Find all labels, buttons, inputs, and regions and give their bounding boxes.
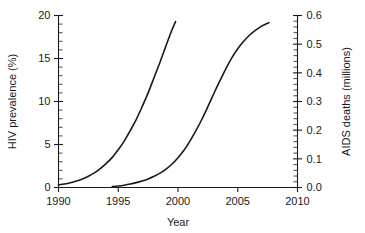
data-series [59, 22, 269, 187]
x-axis-tick-label: 2010 [285, 195, 309, 207]
left-axis-tick-label: 10 [38, 95, 50, 107]
left-axis-tick-label: 5 [44, 138, 50, 150]
right-axis-tick-label: 0.6 [307, 9, 322, 21]
series-line-hiv-prevalence [59, 22, 176, 185]
left-axis-tick-label: 20 [38, 9, 50, 21]
x-axis-tick-label: 1995 [106, 195, 130, 207]
left-axis-tick-label: 15 [38, 52, 50, 64]
x-axis-tick-label: 1990 [46, 195, 70, 207]
right-axis-tick-label: 0.1 [307, 153, 322, 165]
axis-labels: 051015200.00.10.20.30.40.50.619901995200… [6, 9, 352, 228]
right-axis-tick-label: 0.0 [307, 181, 322, 193]
right-axis-tick-label: 0.3 [307, 95, 322, 107]
axes [54, 16, 302, 193]
right-axis-tick-label: 0.2 [307, 124, 322, 136]
series-line-aids-deaths [112, 23, 269, 187]
left-axis-tick-label: 0 [44, 181, 50, 193]
x-axis-tick-label: 2005 [226, 195, 250, 207]
hiv-aids-dual-axis-chart: 051015200.00.10.20.30.40.50.619901995200… [0, 0, 365, 233]
x-axis-tick-label: 2000 [166, 195, 190, 207]
chart-canvas: 051015200.00.10.20.30.40.50.619901995200… [0, 0, 365, 233]
right-axis-tick-label: 0.5 [307, 38, 322, 50]
x-axis-title: Year [167, 216, 190, 228]
right-axis-title: AIDS deaths (millions) [340, 47, 352, 156]
left-axis-title: HIV prevalence (%) [6, 54, 18, 149]
right-axis-tick-label: 0.4 [307, 67, 322, 79]
